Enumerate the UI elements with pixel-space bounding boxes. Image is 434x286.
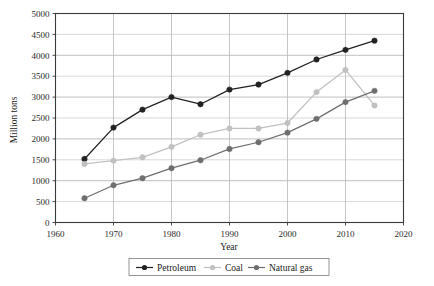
data-point [314,116,319,121]
y-tick-label: 500 [36,197,50,207]
data-point [111,125,116,130]
legend-swatch-marker [254,265,259,270]
data-point [82,196,87,201]
data-point [285,120,290,125]
x-tick-label: 1980 [163,229,182,239]
data-point [169,94,174,99]
legend-label: Petroleum [157,263,197,273]
data-point [227,87,232,92]
data-point [82,156,87,161]
y-tick-label: 2000 [32,134,51,144]
y-tick-label: 5000 [32,9,51,19]
data-point [198,158,203,163]
y-tick-label: 3000 [32,92,51,102]
chart-canvas: 5000450040003500300025002000150010005000… [0,0,434,286]
data-point [314,89,319,94]
data-point [227,126,232,131]
data-point [140,155,145,160]
line-chart: 5000450040003500300025002000150010005000… [0,0,434,286]
y-tick-label: 4500 [32,30,51,40]
x-tick-label: 1960 [47,229,66,239]
y-axis-title: Million tons [9,96,19,143]
data-point [140,107,145,112]
data-point [343,47,348,52]
data-point [256,140,261,145]
data-point [343,99,348,104]
legend-label: Coal [225,263,243,273]
data-point [372,103,377,108]
data-point [169,144,174,149]
data-point [343,67,348,72]
y-tick-label: 3500 [32,71,51,81]
x-tick-label: 2000 [279,229,298,239]
y-tick-label: 2500 [32,113,51,123]
data-point [372,88,377,93]
legend-label: Natural gas [269,263,313,273]
data-point [227,146,232,151]
x-axis-title: Year [220,242,238,252]
legend-swatch-marker [210,265,215,270]
data-point [111,183,116,188]
data-point [140,175,145,180]
legend[interactable]: PetroleumCoalNatural gas [129,259,329,276]
data-point [111,158,116,163]
y-tick-label: 4000 [32,51,51,61]
x-tick-label: 1990 [221,229,240,239]
data-point [256,126,261,131]
data-point [372,38,377,43]
y-tick-label: 0 [45,218,50,228]
data-point [198,102,203,107]
data-point [198,132,203,137]
y-tick-label: 1000 [32,176,51,186]
legend-swatch-marker [142,265,147,270]
data-point [285,70,290,75]
data-point [82,161,87,166]
x-tick-label: 1970 [105,229,124,239]
data-point [256,82,261,87]
data-point [285,130,290,135]
data-point [314,57,319,62]
x-tick-label: 2020 [395,229,414,239]
x-tick-label: 2010 [337,229,356,239]
data-point [169,165,174,170]
y-tick-label: 1500 [32,155,51,165]
